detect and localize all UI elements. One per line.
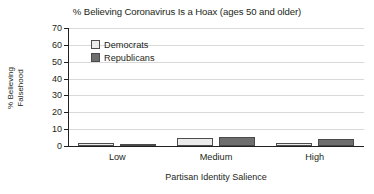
x-axis-title: Partisan Identity Salience xyxy=(68,172,364,182)
y-tick-label: 40 xyxy=(52,74,62,84)
legend-label-democrats: Democrats xyxy=(104,40,148,50)
bar-high-republicans xyxy=(318,139,354,146)
y-axis-title-line-1: % Believing xyxy=(6,52,16,124)
chart-legend: Democrats Republicans xyxy=(91,38,155,64)
y-axis-title-line-2: Falsehood xyxy=(16,52,26,124)
bar-high-democrats xyxy=(276,143,312,146)
legend-label-republicans: Republicans xyxy=(104,53,155,63)
chart-figure: % Believing Coronavirus Is a Hoax (ages … xyxy=(0,0,374,194)
legend-swatch-republicans-icon xyxy=(91,53,100,62)
legend-item-democrats[interactable]: Democrats xyxy=(91,38,155,51)
y-tick-label: 10 xyxy=(52,124,62,134)
legend-item-republicans[interactable]: Republicans xyxy=(91,51,155,64)
y-tick-label: 60 xyxy=(52,40,62,50)
x-axis-line xyxy=(68,146,364,147)
bar-medium-republicans xyxy=(219,137,255,146)
legend-swatch-democrats-icon xyxy=(91,40,100,49)
y-tick-label: 20 xyxy=(52,107,62,117)
bar-medium-democrats xyxy=(177,138,213,146)
bar-low-democrats xyxy=(78,143,114,146)
y-tick-label: 70 xyxy=(52,23,62,33)
x-tick-label-low: Low xyxy=(109,152,126,162)
y-tick-label: 30 xyxy=(52,90,62,100)
bar-low-republicans xyxy=(120,144,156,146)
chart-title: % Believing Coronavirus Is a Hoax (ages … xyxy=(0,6,374,17)
y-axis-title: % Believing Falsehood xyxy=(6,52,28,124)
x-tick-label-high: High xyxy=(305,152,324,162)
y-tick-label: 0 xyxy=(57,141,62,151)
x-tick-label-medium: Medium xyxy=(200,152,233,162)
y-tick-label: 50 xyxy=(52,57,62,67)
